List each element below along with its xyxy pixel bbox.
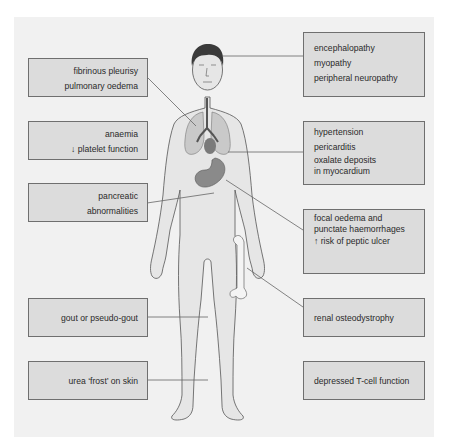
label-line: peripheral neuropathy: [314, 71, 418, 86]
label-box-osteodystrophy: renal osteodystrophy: [303, 298, 425, 337]
label-line: encephalopathy: [314, 41, 418, 56]
label-box-cardiac: hypertension pericarditis oxalate deposi…: [303, 121, 425, 185]
label-line: pulmonary oedema: [35, 79, 138, 94]
label-line: in myocardium: [314, 166, 418, 177]
label-line: myopathy: [314, 56, 418, 71]
label-box-urea-frost: urea ‘frost’ on skin: [28, 361, 148, 400]
label-line: depressed T-cell function: [314, 374, 418, 389]
label-line: focal oedema and: [314, 213, 418, 224]
heart: [204, 138, 216, 154]
label-line: fibrinous pleurisy: [35, 64, 138, 79]
label-box-anaemia: anaemia ↓ platelet function: [28, 121, 148, 160]
label-line: urea ‘frost’ on skin: [35, 374, 138, 389]
label-box-neurologic: encephalopathy myopathy peripheral neuro…: [303, 32, 425, 97]
label-line: pancreatic: [35, 189, 138, 204]
label-line: oxalate deposits: [314, 155, 418, 166]
label-box-t-cell: depressed T-cell function: [303, 361, 425, 400]
label-line: gout or pseudo-gout: [35, 311, 138, 326]
label-line: abnormalities: [35, 204, 138, 219]
label-line: hypertension: [314, 125, 418, 140]
label-line: renal osteodystrophy: [314, 311, 418, 326]
label-box-gastrointestinal: focal oedema and punctate haemorrhages ↑…: [303, 209, 425, 274]
label-line: punctate haemorrhages: [314, 224, 418, 235]
label-line: anaemia: [35, 127, 138, 142]
label-line: ↑ risk of peptic ulcer: [314, 234, 418, 249]
label-box-pancreatic: pancreatic abnormalities: [28, 183, 148, 222]
label-line: ↓ platelet function: [35, 142, 138, 157]
label-box-gout: gout or pseudo-gout: [28, 298, 148, 337]
label-box-pleurisy: fibrinous pleurisy pulmonary oedema: [28, 58, 148, 97]
label-line: pericarditis: [314, 140, 418, 155]
